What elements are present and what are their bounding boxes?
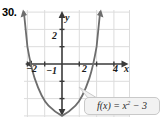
x-tick-label-4: 4: [113, 63, 118, 74]
x-tick-label-neg2: −2: [26, 63, 37, 74]
x-tick-label-2: 2: [82, 63, 87, 74]
equation-prefix: f(x) = x: [97, 100, 127, 111]
graph-figure: 30.: [0, 0, 164, 127]
equation-callout: f(x) = x2 − 3: [84, 97, 160, 115]
equation-text: f(x) = x2 − 3: [97, 101, 147, 111]
y-tick-label-2: 2: [52, 30, 57, 41]
y-axis-label: y: [65, 12, 69, 23]
y-tick-label-neg1: −1: [46, 65, 57, 76]
x-axis-label: x: [124, 63, 129, 74]
equation-suffix: − 3: [130, 100, 147, 111]
